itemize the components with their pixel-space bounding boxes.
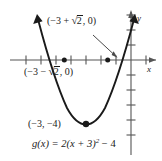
point-vertex	[83, 121, 89, 127]
x-axis-label: x	[147, 65, 151, 74]
x-axis	[10, 56, 156, 65]
equation-label: g(x) = 2(x + 3)2 − 4	[32, 139, 116, 150]
intercept-right-prefix: (−3 +	[47, 15, 72, 26]
intercept-right-suffix: , 0)	[83, 15, 96, 26]
intercept-left-prefix: (−3 −	[24, 66, 49, 77]
parabola-figure: y x (−3 + √2, 0) (−3 − √2, 0) (−3, −4) g…	[0, 0, 162, 161]
vertex-label: (−3, −4)	[28, 119, 61, 129]
intercept-right-radicand: 2	[77, 15, 83, 26]
x-intercept-left-label: (−3 − √2, 0)	[24, 66, 73, 77]
y-axis-label: y	[137, 14, 141, 23]
intercept-left-suffix: , 0)	[60, 66, 73, 77]
point-x-intercept-left	[62, 58, 67, 63]
equation-lhs: g(x) = 2(x + 3)	[32, 138, 96, 149]
annotation-arrow	[93, 35, 118, 58]
equation-rhs: − 4	[99, 138, 115, 149]
intercept-left-radicand: 2	[54, 66, 60, 77]
x-intercept-right-label: (−3 + √2, 0)	[47, 15, 96, 26]
point-x-intercept-right	[105, 58, 110, 63]
